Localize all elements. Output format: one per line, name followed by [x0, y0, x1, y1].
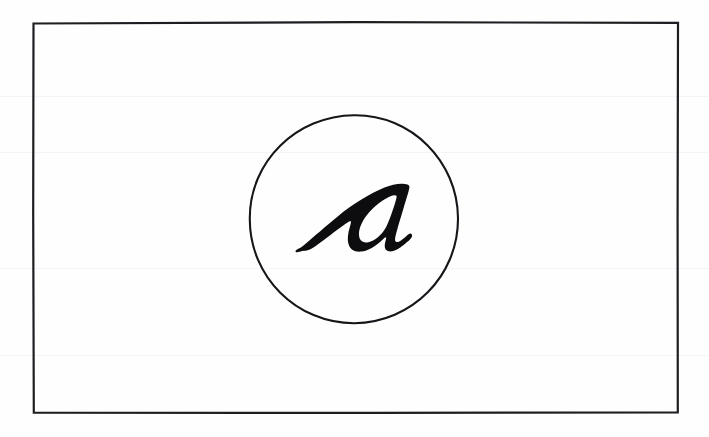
letter-a-bowl [300, 184, 412, 252]
scanned-page [0, 0, 709, 437]
letter-a-tail-left [296, 247, 307, 252]
letter-a-glyph [296, 184, 413, 252]
letter-a-tail-right [406, 234, 412, 242]
figure-canvas [0, 0, 709, 437]
